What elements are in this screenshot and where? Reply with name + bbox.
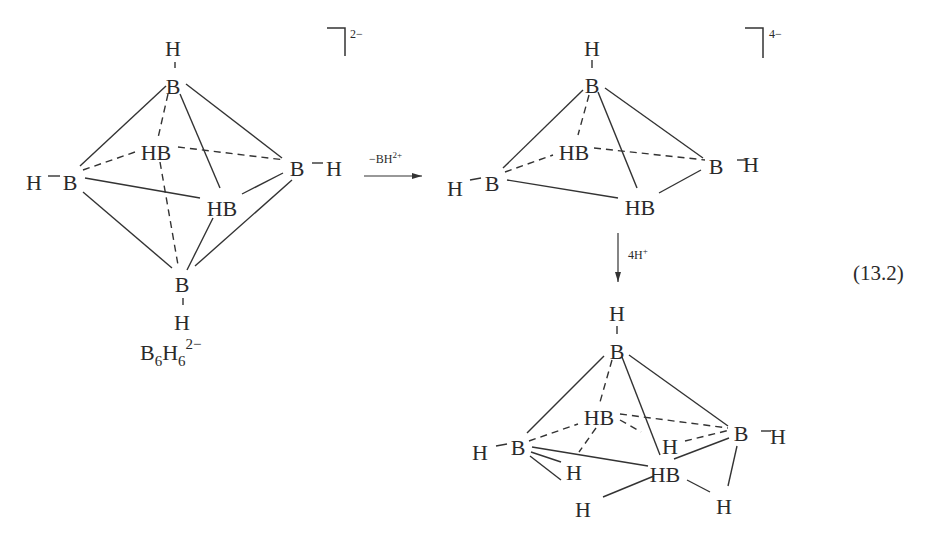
solid-bond: [530, 456, 561, 480]
atom-label-bleft: B: [485, 171, 500, 196]
atom-label-htop: H: [609, 301, 625, 326]
atom-label-hright: H: [770, 424, 786, 449]
atom-label-btop: B: [166, 74, 181, 99]
atom-label-bleft: B: [63, 170, 78, 195]
solid-bond: [659, 170, 701, 193]
atom-label-bright: B: [290, 156, 305, 181]
atom-label-hleft: H: [472, 440, 488, 465]
dashed-bond: [685, 430, 730, 441]
solid-bond: [629, 355, 728, 426]
arrowhead-icon: [615, 272, 621, 282]
dashed-bond: [160, 162, 178, 265]
solid-bond: [242, 173, 283, 194]
dashed-bond: [579, 428, 596, 452]
bracket-icon: [327, 28, 345, 56]
solid-bond: [728, 446, 737, 486]
reaction-scheme-diagram: HBBHHBBHHBBH HBBHHBBHHB HBBHHBBHHHBHHH 2…: [0, 0, 934, 533]
dashed-bond: [529, 424, 578, 441]
atom-label-hleft: H: [26, 170, 42, 195]
atom-label-hbback: HB: [584, 405, 615, 430]
solid-bond: [496, 444, 507, 446]
reactant-formula: B6H62−: [140, 336, 202, 369]
bracket-icon: [745, 28, 763, 58]
atom-label-hleft: H: [447, 176, 463, 201]
atom-label-hbfront: HB: [650, 462, 681, 487]
dashed-bond: [620, 420, 641, 432]
atom-label-hbr1: H: [566, 460, 582, 485]
atom-label-hbback: HB: [559, 140, 590, 165]
atom-label-hbot: H: [174, 310, 190, 335]
solid-bond: [507, 180, 618, 198]
atom-label-hbback: HB: [141, 140, 172, 165]
solid-bond: [674, 438, 729, 459]
step2-arrow: 4H+: [615, 233, 648, 282]
product-b5h9-nido-cluster: HBBHHBBHHHBHHH: [472, 301, 786, 522]
step1-reagent: −BH2+: [369, 150, 402, 166]
atom-label-hbfront: HB: [625, 195, 656, 220]
solid-bond: [622, 357, 660, 455]
atom-label-bright: B: [709, 154, 724, 179]
arrowhead-icon: [412, 173, 422, 179]
solid-bond: [186, 84, 282, 158]
reactant-b6h6-octahedron: HBBHHBBHHBBH: [26, 36, 342, 335]
dashed-bond: [620, 414, 728, 428]
solid-bond: [83, 192, 172, 268]
atom-label-hbfront: HB: [207, 196, 238, 221]
atom-label-hmid: H: [662, 434, 678, 459]
atom-label-bbot: B: [175, 272, 190, 297]
dashed-bond: [178, 147, 285, 160]
dashed-bond: [505, 155, 553, 172]
dashed-bond: [83, 152, 135, 170]
intermediate-charge-bracket: 4−: [745, 27, 782, 58]
intermediate-charge: 4−: [769, 27, 782, 41]
intermediate-b5h5-square-pyramid: HBBHHBBHHB: [447, 36, 759, 220]
atom-label-htop: H: [584, 36, 600, 61]
step1-arrow: −BH2+: [364, 150, 422, 179]
step2-reagent: 4H+: [628, 246, 648, 262]
solid-bond: [532, 447, 648, 466]
dashed-bond: [158, 94, 168, 138]
solid-bond: [603, 476, 654, 497]
reactant-charge: 2−: [350, 27, 363, 41]
dashed-bond: [594, 148, 705, 160]
reactant-charge-bracket: 2−: [327, 27, 363, 56]
atom-label-hbr2: H: [575, 497, 591, 522]
atom-label-bleft: B: [511, 435, 526, 460]
atom-label-hright: H: [743, 152, 759, 177]
solid-bond: [180, 94, 220, 188]
solid-bond: [470, 178, 481, 180]
equation-number: (13.2): [853, 261, 904, 285]
dashed-bond: [600, 360, 612, 402]
solid-bond: [605, 88, 703, 158]
atom-label-btop: B: [610, 339, 625, 364]
atom-label-btop: B: [585, 73, 600, 98]
atom-label-hright: H: [326, 156, 342, 181]
atom-label-bright: B: [734, 421, 749, 446]
dashed-bond: [578, 95, 589, 135]
solid-bond: [687, 480, 710, 492]
solid-bond: [85, 178, 200, 198]
atom-label-htop: H: [165, 36, 181, 61]
atom-label-hbr3: H: [716, 494, 732, 519]
